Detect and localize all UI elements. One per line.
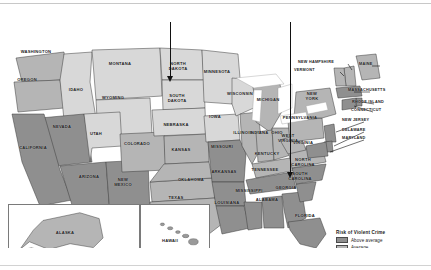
state-label-new-hampshire: NEW HAMPSHIRE (298, 60, 346, 65)
state-label-vermont: VERMONT (294, 68, 342, 73)
state-label-minnesota: MINNESOTA (195, 70, 239, 75)
state-label-michigan: MICHIGAN (246, 98, 290, 103)
map-legend: Risk of Violent Crime Above averageAvera… (336, 230, 428, 248)
state-shape-montana (92, 48, 162, 100)
state-label-massachusetts: MASSACHUSETTS (348, 88, 396, 93)
state-label-missouri: MISSOURI (200, 145, 244, 150)
annotation-arrow-head-north-carolina (287, 172, 293, 178)
state-label-washington: WASHINGTON (14, 50, 58, 55)
state-label-new-jersey: NEW JERSEY (342, 118, 390, 123)
state-label-maryland: MARYLAND (342, 136, 390, 141)
legend-label-above-average: Above average (351, 238, 383, 243)
state-label-georgia: GEORGIA (264, 186, 308, 191)
hawaii-inset: HAWAII (140, 204, 210, 248)
state-shape-oregon (14, 80, 64, 112)
alaska-inset: ALASKA (8, 204, 140, 248)
state-label-maine: MAINE (359, 62, 407, 67)
legend-title: Risk of Violent Crime (336, 230, 428, 235)
state-label-kansas: KANSAS (159, 148, 203, 153)
state-label-new-york: NEW YORK (290, 92, 334, 101)
state-label-nevada: NEVADA (40, 125, 84, 130)
state-label-kentucky: KENTUCKY (245, 152, 289, 157)
state-label-iowa: IOWA (193, 115, 237, 120)
state-shape-louisiana (216, 206, 250, 234)
state-label-arkansas: ARKANSAS (202, 170, 246, 175)
legend-swatch-average (336, 245, 348, 248)
state-label-delaware: DELAWARE (342, 128, 390, 133)
state-label-louisiana: LOUISIANA (205, 201, 249, 206)
state-label-nebraska: NEBRASKA (154, 123, 198, 128)
state-label-florida: FLORIDA (283, 214, 327, 219)
state-label-colorado: COLORADO (115, 142, 159, 147)
bottom-divider (0, 265, 431, 266)
state-label-california: CALIFORNIA (11, 146, 55, 151)
legend-swatch-above-average (336, 237, 348, 243)
state-label-oregon: OREGON (5, 78, 49, 83)
legend-row-above-average: Above average (336, 237, 428, 243)
state-shape-idaho (60, 52, 96, 120)
state-label-oklahoma: OKLAHOMA (169, 178, 213, 183)
top-divider (0, 3, 431, 4)
annotation-arrow-line-north-carolina (290, 22, 291, 174)
state-label-west-virginia: WEST VIRGINIA (266, 134, 310, 143)
annotation-arrow-head-north-dakota (167, 76, 173, 82)
state-label-utah: UTAH (74, 132, 118, 137)
state-label-montana: MONTANA (98, 62, 142, 67)
state-label-rhode-island: RHODE ISLAND (352, 100, 400, 105)
annotation-arrow-line-north-dakota (170, 22, 171, 78)
state-label-north-carolina: NORTH CAROLINA (281, 158, 325, 167)
legend-label-average: Average (351, 245, 368, 248)
state-label-alabama: ALABAMA (245, 198, 289, 203)
state-label-south-carolina: SOUTH CAROLINA (278, 172, 322, 181)
state-label-connecticut: CONNECTICUT (351, 108, 399, 113)
us-choropleth-map: WASHINGTONOREGONIDAHOMONTANAWYOMINGNEVAD… (0, 22, 431, 248)
state-shape-maine (356, 54, 380, 80)
state-label-south-dakota: SOUTH DAKOTA (155, 94, 199, 103)
state-label-new-mexico: NEW MEXICO (101, 178, 145, 187)
state-shape-florida (288, 218, 326, 248)
state-label-wyoming: WYOMING (91, 96, 135, 101)
state-label-texas: TEXAS (154, 196, 198, 201)
state-label-wisconsin: WISCONSIN (218, 92, 262, 97)
state-label-idaho: IDAHO (54, 88, 98, 93)
state-label-alaska: ALASKA (45, 231, 85, 236)
state-label-north-dakota: NORTH DAKOTA (156, 62, 200, 71)
state-shape-newjersey (324, 124, 336, 142)
legend-row-average: Average (336, 245, 428, 248)
state-label-hawaii: HAWAII (153, 239, 187, 244)
state-label-pennsylvania: PENNSYLVANIA (278, 116, 322, 121)
legend-items: Above averageAverageBelow average (336, 237, 428, 248)
state-shape-utah (84, 112, 122, 162)
